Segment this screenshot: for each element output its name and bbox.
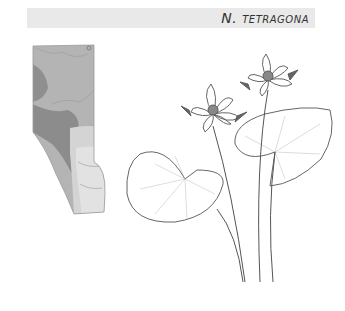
water-lily-illustration-icon: [125, 44, 340, 284]
species-banner: N. tetragona: [27, 8, 315, 28]
distribution-map-icon: [32, 44, 124, 216]
species-title: N. tetragona: [221, 8, 309, 28]
